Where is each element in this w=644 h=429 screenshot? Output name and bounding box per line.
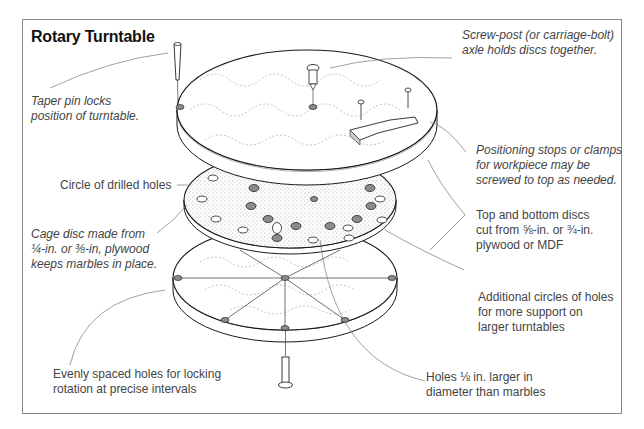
marble (273, 223, 282, 234)
taper-pin (174, 43, 181, 105)
callout-top-bottom-discs: Top and bottom discs cut from ⅝-in. or ¾… (476, 208, 593, 253)
callout-holes-larger: Holes ⅛ in. larger in diameter than marb… (426, 370, 545, 400)
callout-circle-of-holes: Circle of drilled holes (60, 178, 171, 193)
top-disc (176, 50, 437, 185)
callout-additional-holes: Additional circles of holes for more sup… (478, 290, 613, 335)
callout-screw-post: Screw-post (or carriage-bolt) axle holds… (462, 28, 614, 58)
callout-taper-pin: Taper pin locks position of turntable. (31, 94, 139, 124)
callout-evenly-spaced-holes: Evenly spaced holes for locking rotation… (53, 367, 221, 397)
callout-positioning-stops: Positioning stops or clamps for workpiec… (476, 143, 622, 188)
callout-cage-disc: Cage disc made from ¼-in. or ⅜-in, plywo… (31, 227, 157, 272)
